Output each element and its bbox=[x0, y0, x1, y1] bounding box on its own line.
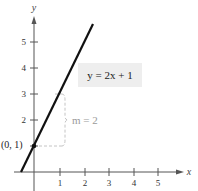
y-tick-label: 3 bbox=[22, 89, 27, 99]
x-axis-label: x bbox=[186, 166, 192, 177]
line-y-2x-plus-1 bbox=[21, 24, 93, 172]
x-tick-label: 1 bbox=[58, 178, 63, 188]
y-tick-label: 5 bbox=[22, 37, 27, 47]
slope-label: m = 2 bbox=[72, 114, 98, 126]
x-tick-label: 3 bbox=[107, 178, 112, 188]
x-tick-label: 5 bbox=[156, 178, 161, 188]
x-tick-label: 2 bbox=[83, 178, 88, 188]
slope-guide bbox=[34, 94, 68, 146]
y-tick-label: 2 bbox=[22, 115, 27, 125]
y-axis-arrow-icon bbox=[32, 16, 37, 24]
x-tick-label: 4 bbox=[132, 178, 137, 188]
x-axis-arrow-icon bbox=[176, 170, 184, 175]
intercept-label: (0, 1) bbox=[1, 139, 23, 150]
y-axis-label: y bbox=[31, 2, 37, 13]
chart-canvas: 2 3 4 5 1 2 3 4 5 y x bbox=[0, 0, 198, 191]
intercept-point bbox=[32, 144, 37, 149]
equation-label: y = 2x + 1 bbox=[78, 63, 142, 87]
equation-text: y = 2x + 1 bbox=[87, 69, 132, 81]
y-tick-label: 4 bbox=[22, 63, 27, 73]
